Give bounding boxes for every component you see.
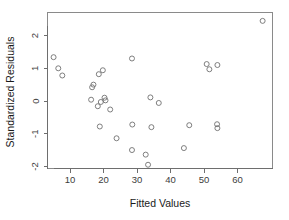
data-point: [143, 152, 148, 157]
x-axis-title: Fitted Values: [130, 197, 191, 209]
data-points-layer: [51, 18, 265, 167]
data-point: [56, 66, 61, 71]
data-point: [100, 68, 105, 73]
plot-canvas: 102030405060 -2-1012 Fitted Values Stand…: [0, 0, 289, 220]
plot-frame: [48, 13, 273, 169]
y-axis-title: Standardized Residuals: [4, 37, 16, 148]
y-axis-ticks: -2-1012: [30, 26, 48, 171]
data-point: [149, 125, 154, 130]
x-tick-label: 60: [232, 174, 243, 185]
data-point: [89, 97, 94, 102]
data-point: [130, 122, 135, 127]
x-tick-label: 10: [65, 174, 76, 185]
y-tick-label: -2: [30, 162, 41, 170]
scatter-plot-figure: 102030405060 -2-1012 Fitted Values Stand…: [0, 0, 289, 220]
data-point: [96, 72, 101, 77]
data-point: [108, 107, 113, 112]
y-tick-label: 1: [30, 66, 41, 71]
data-point: [146, 162, 151, 167]
data-point: [215, 63, 220, 68]
x-tick-label: 40: [165, 174, 176, 185]
x-tick-label: 30: [132, 174, 143, 185]
data-point: [51, 55, 56, 60]
data-point: [204, 62, 209, 67]
data-point: [148, 95, 153, 100]
data-point: [129, 148, 134, 153]
data-point: [60, 73, 65, 78]
y-tick-label: -1: [30, 129, 41, 137]
data-point: [260, 18, 265, 23]
x-tick-label: 50: [199, 174, 210, 185]
x-tick-label: 20: [98, 174, 109, 185]
data-point: [129, 56, 134, 61]
y-tick-label: 2: [30, 33, 41, 38]
data-point: [181, 146, 186, 151]
data-point: [97, 124, 102, 129]
x-axis-ticks: 102030405060: [54, 169, 273, 186]
data-point: [187, 123, 192, 128]
data-point: [114, 136, 119, 141]
y-tick-label: 0: [30, 98, 41, 103]
data-point: [156, 100, 161, 105]
data-point: [207, 67, 212, 72]
